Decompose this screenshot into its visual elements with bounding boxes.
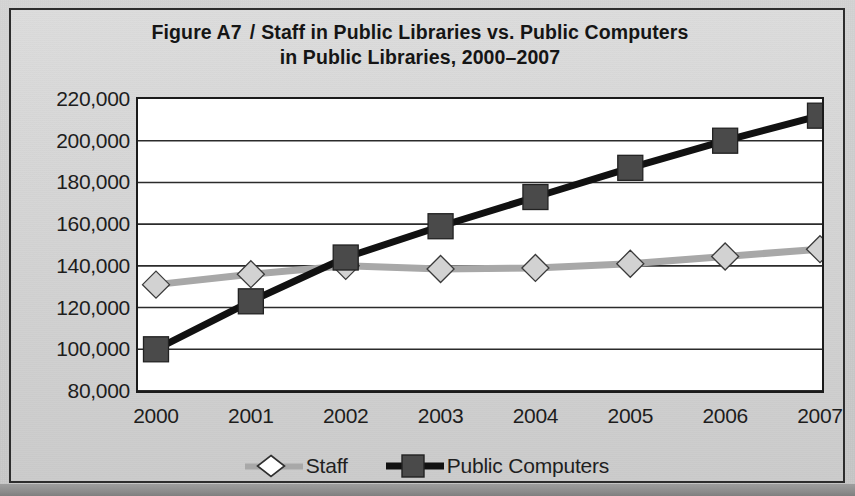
data-point-square (428, 214, 453, 239)
figure-label: Figure A7 (152, 21, 242, 43)
figure-title: Figure A7/Staff in Public Libraries vs. … (60, 20, 780, 70)
data-point-square (333, 245, 358, 270)
y-axis-tick-label: 120,000 (12, 296, 130, 320)
title-line-2: in Public Libraries, 2000–2007 (280, 46, 560, 68)
legend-label-staff: Staff (306, 454, 348, 478)
data-point-diamond (237, 261, 264, 288)
plot-area (136, 97, 824, 393)
data-point-square (144, 337, 169, 362)
x-axis-tick-label: 2001 (228, 404, 274, 428)
y-axis-tick-label: 140,000 (12, 254, 130, 278)
y-axis-tick-label: 200,000 (12, 129, 130, 153)
legend-item-public-computers[interactable]: Public Computers (386, 453, 610, 479)
legend-item-staff[interactable]: Staff (245, 453, 348, 479)
x-axis-tick-label: 2002 (323, 404, 369, 428)
legend-label-public-computers: Public Computers (447, 454, 610, 478)
x-axis-tick-label: 2004 (513, 404, 559, 428)
x-axis-tick-label: 2005 (608, 404, 654, 428)
y-axis-tick-label: 220,000 (12, 87, 130, 111)
y-axis-tick-label: 80,000 (12, 379, 130, 403)
x-axis: 20002001200220032004200520062007 (136, 404, 824, 436)
y-axis-tick-label: 160,000 (12, 212, 130, 236)
series-public-computers (144, 103, 823, 362)
data-point-square (238, 289, 263, 314)
y-axis: 220,000200,000180,000160,000140,000120,0… (6, 0, 130, 496)
chart-svg (138, 99, 822, 391)
data-point-diamond (617, 250, 644, 277)
title-line-1: Staff in Public Libraries vs. Public Com… (261, 21, 688, 43)
square-filled-icon (386, 453, 444, 479)
y-axis-tick-label: 180,000 (12, 170, 130, 194)
data-point-square (808, 103, 823, 128)
x-axis-tick-label: 2000 (133, 404, 179, 428)
data-point-diamond (143, 271, 170, 298)
data-point-square (618, 155, 643, 180)
x-axis-tick-label: 2007 (797, 404, 843, 428)
data-point-diamond (807, 236, 823, 263)
data-point-diamond (522, 254, 549, 281)
data-point-square (713, 128, 738, 153)
data-point-diamond (427, 255, 454, 282)
x-axis-tick-label: 2003 (418, 404, 464, 428)
diamond-hollow-icon (245, 453, 303, 479)
x-axis-tick-label: 2006 (702, 404, 748, 428)
data-point-square (523, 185, 548, 210)
chart-legend: Staff Public Computers (9, 451, 845, 481)
title-separator: / (250, 21, 256, 43)
y-axis-tick-label: 100,000 (12, 337, 130, 361)
